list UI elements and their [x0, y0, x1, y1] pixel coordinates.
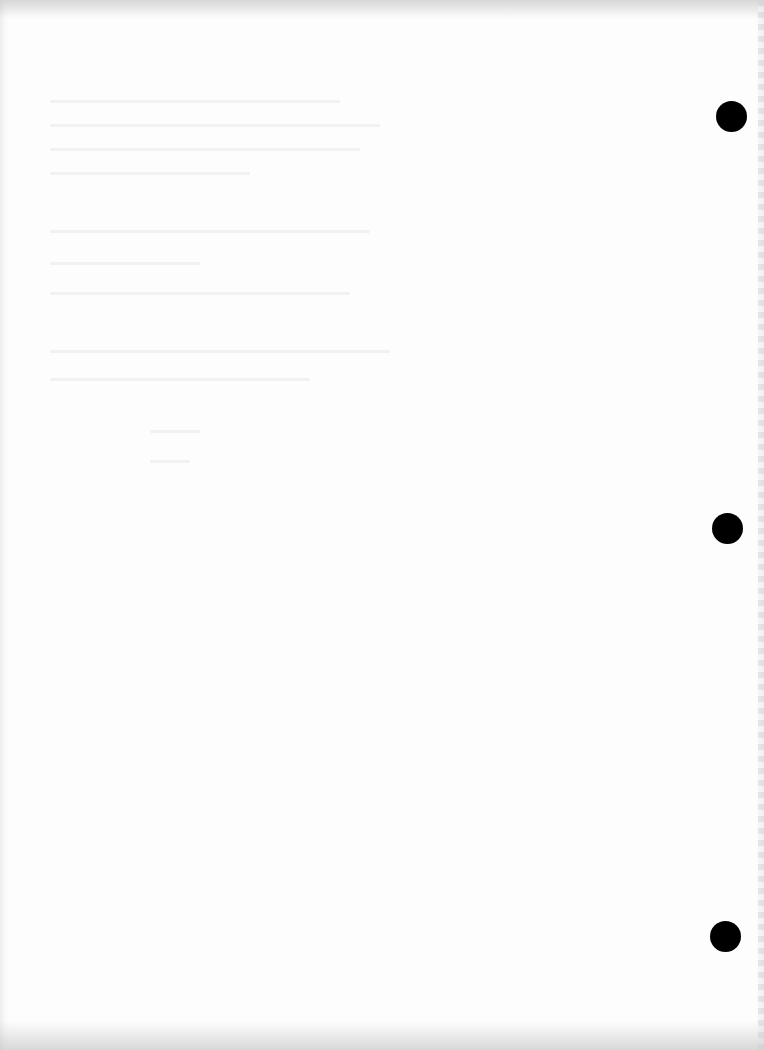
punch-hole-top	[716, 101, 747, 132]
scan-bottom-shadow	[0, 1020, 764, 1050]
punch-hole-bottom	[710, 921, 741, 952]
scan-top-shadow	[0, 0, 764, 18]
punch-hole-middle	[712, 513, 743, 544]
scanned-page	[0, 0, 764, 1050]
scan-right-edge	[758, 0, 764, 1050]
